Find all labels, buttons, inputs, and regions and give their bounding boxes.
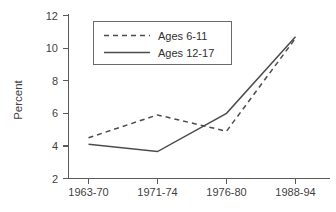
y-tick-label-6: 6 xyxy=(52,107,58,119)
y-tick-label-4: 4 xyxy=(52,140,58,152)
chart-canvas: 2 4 6 8 10 12 1963-70 1971-74 1976-80 19… xyxy=(0,0,336,212)
x-tick-label-1988-94: 1988-94 xyxy=(275,186,315,198)
y-tick-label-12: 12 xyxy=(46,10,58,22)
y-tick-label-2: 2 xyxy=(52,173,58,185)
legend-label-ages-6-11: Ages 6-11 xyxy=(158,30,207,42)
x-tick-label-1971-74: 1971-74 xyxy=(137,186,177,198)
x-tick-label-1976-80: 1976-80 xyxy=(206,186,246,198)
y-tick-label-10: 10 xyxy=(46,42,58,54)
x-tick-label-1963-70: 1963-70 xyxy=(68,186,108,198)
legend-label-ages-12-17: Ages 12-17 xyxy=(158,47,214,59)
y-axis-title: Percent xyxy=(12,79,24,119)
chart-legend: Ages 6-11 Ages 12-17 xyxy=(94,22,232,65)
y-tick-label-8: 8 xyxy=(52,75,58,87)
line-chart-figure: 2 4 6 8 10 12 1963-70 1971-74 1976-80 19… xyxy=(0,0,336,212)
